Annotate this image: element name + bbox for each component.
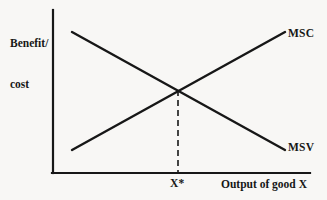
diagram-canvas: [0, 0, 327, 200]
y-axis-title-line-2: cost: [10, 78, 48, 92]
series-label-msv: MSV: [288, 141, 314, 155]
x-axis-title: Output of good X: [221, 178, 307, 192]
y-axis-title-line-1: Benefit/: [10, 37, 48, 51]
series-label-msc: MSC: [288, 27, 314, 41]
equilibrium-tick-label: X*: [170, 177, 185, 191]
economics-diagram-figure: Benefit/ cost Output of good X MSC MSV X…: [0, 0, 327, 200]
y-axis-title: Benefit/ cost: [10, 10, 48, 119]
